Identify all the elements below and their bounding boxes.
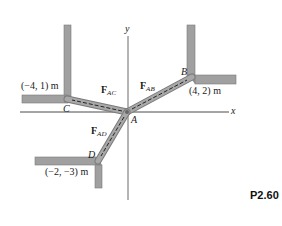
y-axis-label: y — [125, 24, 129, 34]
member-ab — [127, 77, 192, 112]
point-b-label: B — [181, 67, 187, 77]
x-axis-label: x — [231, 106, 235, 116]
point-c-label: C — [63, 104, 70, 114]
joint-a — [125, 110, 129, 114]
diagram-canvas — [0, 0, 282, 226]
force-ab-label: FAB — [140, 81, 155, 93]
point-a-label: A — [131, 115, 137, 125]
support-c — [22, 25, 71, 103]
point-d-coord: (−2, −3) m — [45, 167, 88, 177]
force-ac-label: FAC — [101, 85, 116, 97]
force-ad-label: FAD — [91, 126, 106, 138]
point-d-label: D — [88, 150, 95, 160]
member-ac — [67, 99, 127, 112]
point-b-coord: (4, 2) m — [189, 86, 221, 96]
point-c-coord: (−4, 1) m — [21, 81, 59, 91]
figure-number: P2.60 — [250, 189, 279, 201]
force-diagram: y x A B C D (−4, 1) m (4, 2) m (−2, −3) … — [0, 0, 282, 226]
